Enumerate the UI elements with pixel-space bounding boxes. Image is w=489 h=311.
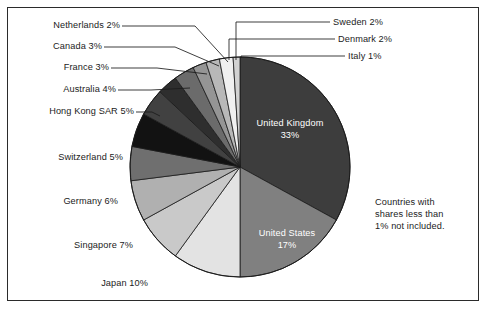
slice-label-united-states-name: United States	[238, 228, 336, 240]
leader-line-sweden	[236, 22, 330, 60]
slice-label-united-kingdom-name: United Kingdom	[238, 118, 342, 130]
slice-label-united-states-pct: 17%	[238, 240, 336, 252]
chart-footnote-line-2: shares less than	[375, 208, 471, 220]
leader-line-italy	[241, 56, 345, 58]
chart-page: Netherlands 2% Canada 3% France 3% Austr…	[0, 0, 489, 311]
slice-callout-italy: Italy 1%	[348, 51, 381, 62]
slice-callout-canada: Canada 3%	[20, 41, 102, 52]
slice-callout-sweden: Sweden 2%	[333, 17, 383, 28]
chart-footnote-line-3: 1% not included.	[375, 220, 471, 232]
slice-callout-germany: Germany 6%	[30, 196, 118, 207]
chart-footnote: Countries with shares less than 1% not i…	[375, 196, 471, 232]
slice-label-united-kingdom-pct: 33%	[238, 130, 342, 142]
slice-callout-france: France 3%	[20, 62, 109, 73]
slice-callout-denmark: Denmark 2%	[338, 34, 392, 45]
leader-line-canada	[104, 47, 219, 66]
slice-callout-netherlands: Netherlands 2%	[20, 20, 120, 31]
slice-callout-singapore: Singapore 7%	[40, 240, 133, 251]
slice-callout-hong-kong-sar: Hong Kong SAR 5%	[14, 106, 134, 117]
leader-line-netherlands	[122, 26, 228, 62]
slice-callout-japan: Japan 10%	[65, 278, 148, 289]
slice-callout-switzerland: Switzerland 5%	[20, 152, 123, 163]
slice-label-united-kingdom: United Kingdom 33%	[238, 118, 342, 142]
chart-footnote-line-1: Countries with	[375, 196, 471, 208]
slice-label-united-states: United States 17%	[238, 228, 336, 252]
slice-callout-australia: Australia 4%	[20, 84, 116, 95]
